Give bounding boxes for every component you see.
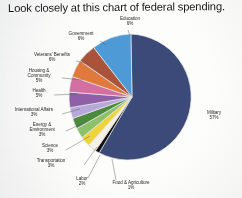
label-government: Government 6% <box>57 31 105 41</box>
screenshot-page: Look closely at this chart of federal sp… <box>0 0 242 198</box>
label-veterans-benefits: Veterans' Benefits 6% <box>26 52 78 62</box>
leader-line-transportation <box>84 147 97 165</box>
label-housing-community: Housing & Community 5% <box>14 68 64 84</box>
leader-line-labor <box>88 155 100 178</box>
label-transportation: Transportation 3% <box>24 158 78 168</box>
label-labor: Labor 2% <box>68 176 96 186</box>
label-military: Military 57% <box>197 110 231 120</box>
label-science: Science 3% <box>32 143 68 153</box>
leader-line-food <box>112 159 116 180</box>
label-education: Education 6% <box>110 16 150 26</box>
label-health: Health 5% <box>22 88 56 98</box>
label-energy-environment: Energy & Environment 3% <box>16 122 68 138</box>
label-international-affairs: International Affairs 3% <box>5 107 63 117</box>
label-food-agriculture: Food & Agriculture 1% <box>100 180 162 190</box>
